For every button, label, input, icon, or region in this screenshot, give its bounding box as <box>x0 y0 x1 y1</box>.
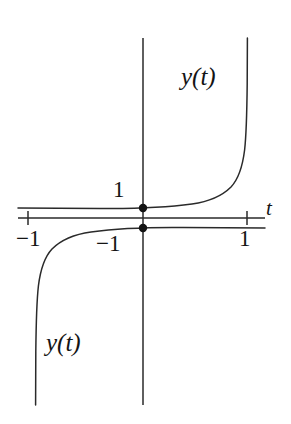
plot-graphic <box>0 0 291 424</box>
point-marker-negative-one <box>139 224 147 232</box>
tick-label-y-positive-one: 1 <box>113 178 125 201</box>
curve-lower-branch <box>36 228 265 405</box>
tick-label-y-negative-one: −1 <box>96 232 120 255</box>
curve-label-upper: y(t) <box>181 64 216 89</box>
curve-label-lower: y(t) <box>46 330 81 355</box>
x-axis-label: t <box>266 198 272 219</box>
tick-label-x-negative-one: −1 <box>16 227 40 250</box>
figure-canvas: y(t) y(t) t −1 1 1 −1 <box>0 0 291 424</box>
point-marker-positive-one <box>139 204 147 212</box>
tick-label-x-positive-one: 1 <box>239 227 251 250</box>
